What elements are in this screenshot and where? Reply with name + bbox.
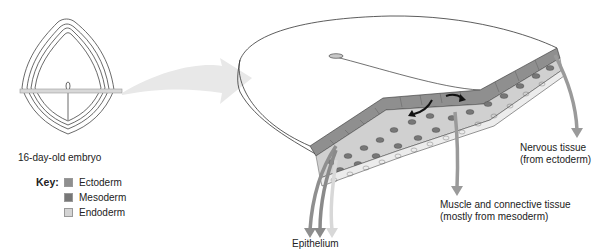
legend-item-endoderm: Endoderm: [64, 206, 125, 218]
section-plane-bar: [20, 89, 122, 93]
legend-label: Ectoderm: [79, 177, 122, 188]
legend-title: Key:: [36, 176, 59, 188]
muscle-tissue-line1: Muscle and connective tissue: [440, 199, 571, 211]
legend-label: Mesoderm: [79, 192, 126, 203]
muscle-tissue-line2: (mostly from mesoderm): [440, 211, 571, 223]
legend-label: Endoderm: [79, 207, 125, 218]
muscle-tissue-arrow: [455, 112, 458, 188]
legend-item-ectoderm: Ectoderm: [64, 176, 122, 188]
magnify-arrow-icon: [122, 58, 252, 104]
epithelium-label: Epithelium: [292, 238, 339, 250]
embryo-caption: 16-day-old embryo: [18, 152, 101, 163]
legend-item-mesoderm: Mesoderm: [64, 191, 126, 203]
nervous-tissue-line2: (from ectoderm): [520, 154, 591, 166]
ectoderm-swatch: [64, 178, 73, 187]
muscle-tissue-label: Muscle and connective tissue (mostly fro…: [440, 199, 571, 223]
nervous-tissue-label: Nervous tissue (from ectoderm): [520, 142, 591, 166]
mesoderm-swatch: [64, 193, 73, 202]
nervous-tissue-line1: Nervous tissue: [520, 142, 591, 154]
embryo-diagram: [22, 19, 114, 134]
endoderm-swatch: [64, 208, 73, 217]
